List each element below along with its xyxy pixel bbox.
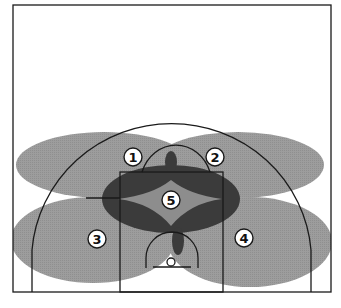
zone-label-1: 1 [124,148,142,166]
court-diagram: 1 2 3 4 5 [0,0,341,308]
zone-label-4: 4 [235,229,253,247]
basket [167,258,175,266]
svg-text:1: 1 [128,150,137,165]
zone-label-2: 2 [206,148,224,166]
zone-label-3: 3 [88,230,106,248]
svg-text:5: 5 [166,193,175,208]
overlap-lobe-bottom [172,227,184,255]
svg-text:2: 2 [210,150,219,165]
zone-label-5: 5 [162,191,180,209]
svg-text:3: 3 [92,232,101,247]
svg-text:4: 4 [239,231,248,246]
overlap-lobe-top [165,151,177,173]
